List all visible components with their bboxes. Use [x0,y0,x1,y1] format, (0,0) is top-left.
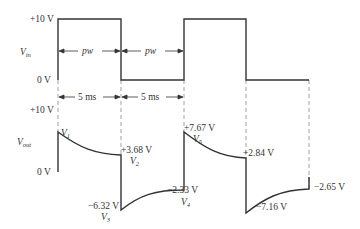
vin-label: Vin [20,47,31,58]
v5-label: V5 [193,134,203,145]
vin-high-label: +10 V [30,14,54,24]
pw-label-2: pw [144,46,157,56]
v8-value: −2.65 V [314,182,345,192]
v2-label: V2 [130,156,140,167]
v4-label: V4 [181,197,191,208]
v3-label: V3 [101,212,111,223]
interval-label-1: 5 ms [78,92,97,102]
v5-value: +7.67 V [184,123,215,133]
vin-low-label: 0 V [37,75,51,85]
vin-waveform [58,19,309,80]
v6-value: +2.84 V [243,148,274,158]
v4-value: −2.33 V [167,185,198,195]
v3-value: −6.32 V [88,201,119,211]
pw-label-1: pw [81,46,94,56]
v2-value: +3.68 V [121,145,152,155]
waveform-diagram: +10 V 0 V Vin pw pw 5 ms 5 ms +10 V 0 V … [0,0,360,229]
interval-label-2: 5 ms [141,92,160,102]
v7-value: −7.16 V [256,202,287,212]
vout-zero-label: 0 V [37,167,51,177]
vout-label: Vout [17,137,31,148]
v1-label: V1 [61,128,70,139]
vout-top-label: +10 V [30,105,54,115]
